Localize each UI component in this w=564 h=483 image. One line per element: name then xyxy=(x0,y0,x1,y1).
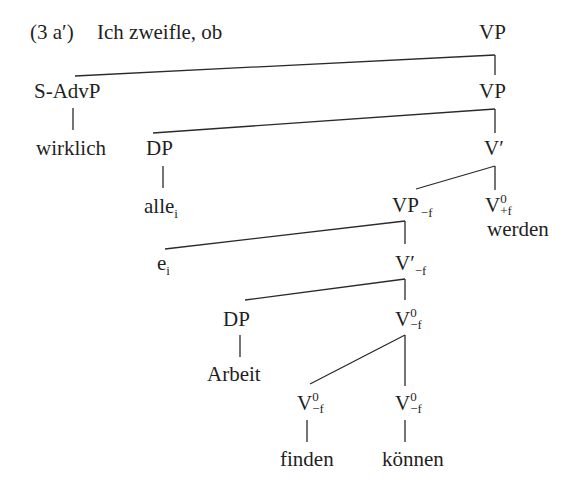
branch-vp-f-to-e xyxy=(165,221,405,249)
page-edge-shadow xyxy=(554,0,564,483)
leaf-alle: allei xyxy=(144,196,178,217)
vbar-f-sub: −f xyxy=(415,263,427,278)
node-root-vp: VP xyxy=(479,22,506,43)
v0-plusf-sub: +f xyxy=(500,205,512,217)
node-v0-f-right: V0−f xyxy=(395,393,422,417)
leaf-koennen: können xyxy=(382,449,444,470)
v0-plusf-label: V xyxy=(485,193,500,217)
node-v0-f-left: V0−f xyxy=(297,393,324,417)
branch-vbar-to-vp-f xyxy=(416,166,495,189)
leaf-e: ei xyxy=(157,253,170,274)
e-text: e xyxy=(157,251,166,275)
node-s-advp: S-AdvP xyxy=(34,81,101,102)
v0-f-left-label: V xyxy=(297,391,312,415)
node-v0-plusf: V0+f xyxy=(485,195,512,219)
v0-f-mid-label: V xyxy=(395,307,410,331)
example-lead-text: Ich zweifle, ob xyxy=(97,22,222,43)
branch-vbar-f-to-dp xyxy=(245,279,405,300)
v0-f-right-sub: −f xyxy=(410,403,422,415)
branch-root-to-s-advp xyxy=(75,55,495,76)
node-vbar-f: V′−f xyxy=(395,253,426,274)
vp-f-label: VP xyxy=(392,193,419,217)
node-vp: VP xyxy=(479,81,506,102)
node-vp-f: VP−f xyxy=(392,195,433,216)
branch-v0-f-to-left xyxy=(310,335,405,384)
vp-f-sub: −f xyxy=(421,205,433,220)
v0-f-left-sub: −f xyxy=(312,403,324,415)
example-number: (3 a′) xyxy=(30,22,74,43)
leaf-finden: finden xyxy=(280,449,334,470)
branch-vp-to-dp xyxy=(153,109,495,133)
leaf-werden: werden xyxy=(487,219,549,240)
vbar-f-label: V′ xyxy=(395,251,415,275)
node-vbar: V′ xyxy=(484,138,504,159)
node-dp: DP xyxy=(146,138,173,159)
node-dp-object: DP xyxy=(223,309,250,330)
node-v0-f-mid: V0−f xyxy=(395,309,422,333)
leaf-arbeit: Arbeit xyxy=(207,364,261,385)
alle-text: alle xyxy=(144,194,174,218)
v0-f-right-label: V xyxy=(395,391,410,415)
alle-index: i xyxy=(174,206,178,221)
leaf-wirklich: wirklich xyxy=(36,138,106,159)
e-index: i xyxy=(166,263,170,278)
v0-f-mid-sub: −f xyxy=(410,319,422,331)
tree-branches xyxy=(0,0,564,483)
